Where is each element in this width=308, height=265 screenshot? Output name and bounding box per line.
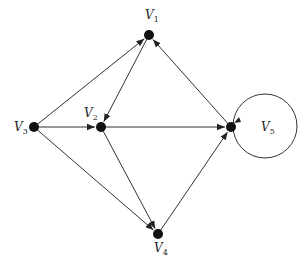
nodes — [29, 30, 236, 239]
loop-arrowhead-icon — [234, 117, 241, 123]
labels: V1V2V3V4V5 — [14, 8, 275, 257]
node-label-v5: V5 — [261, 120, 275, 136]
node-v2 — [96, 122, 106, 132]
node-v3 — [29, 122, 39, 132]
edge-v1-to-v2 — [104, 39, 147, 122]
node-label-v1: V1 — [145, 8, 159, 24]
edge-v2-to-v4 — [103, 131, 155, 229]
node-label-v4: V4 — [154, 241, 168, 257]
node-label-v3: V3 — [14, 120, 28, 136]
node-v1 — [144, 30, 154, 40]
edge-v4-to-v5 — [160, 132, 227, 231]
node-v5 — [226, 122, 236, 132]
edges — [37, 39, 297, 231]
node-label-v2: V2 — [84, 106, 98, 122]
edge-v5-to-v1 — [153, 39, 228, 124]
edge-v3-to-v4 — [37, 130, 153, 230]
directed-graph: V1V2V3V4V5 — [0, 0, 308, 265]
node-v4 — [153, 229, 163, 239]
